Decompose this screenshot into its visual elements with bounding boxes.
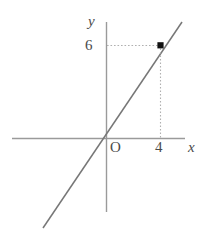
coordinate-plane-figure: y 6 O 4 x [0, 0, 213, 239]
data-point-marker [157, 42, 163, 48]
y-axis-label: y [88, 14, 95, 29]
y-tick-label-6: 6 [85, 38, 93, 53]
x-axis-label: x [188, 140, 195, 155]
x-tick-label-4: 4 [155, 140, 163, 155]
plot-canvas [0, 0, 213, 239]
origin-label: O [110, 140, 121, 155]
plotted-line [43, 22, 182, 228]
